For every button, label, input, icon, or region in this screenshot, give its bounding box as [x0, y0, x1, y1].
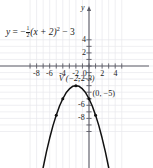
equation-minus: − — [20, 27, 25, 37]
intercept-label: (0, −5) — [93, 90, 115, 98]
y-tick-label: 4 — [82, 36, 86, 44]
figure-container: y = −12(x + 2)2 − 3 y x -8-6-4-202442-2-… — [0, 0, 153, 168]
equation-label: y = −12(x + 2)2 − 3 — [6, 26, 75, 39]
x-tick-label: -8 — [33, 70, 40, 78]
equation-binomial: (x + 2) — [30, 27, 56, 37]
y-tick-label: -8 — [78, 114, 85, 122]
equation-fraction: 12 — [26, 26, 30, 39]
vertex-label: V (−2, −3) — [59, 75, 95, 83]
equation-tail: − 3 — [62, 27, 74, 37]
y-axis-label: y — [81, 4, 85, 12]
fraction-denominator: 2 — [26, 32, 30, 39]
x-tick-label: 4 — [113, 70, 117, 78]
x-tick-label: -6 — [46, 70, 53, 78]
y-tick-label: -6 — [78, 101, 85, 109]
y-tick-label: 2 — [82, 49, 86, 57]
x-tick-label: 2 — [100, 70, 104, 78]
